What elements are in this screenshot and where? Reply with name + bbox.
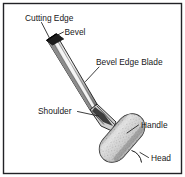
label-bevel: Bevel: [65, 27, 86, 37]
chisel-diagram-canvas: Cutting Edge Bevel Bevel Edge Blade Shou…: [0, 0, 185, 177]
label-cutting-edge: Cutting Edge: [25, 13, 74, 23]
label-handle: Handle: [141, 120, 168, 130]
label-shoulder: Shoulder: [38, 106, 72, 116]
figure-border: [4, 4, 182, 174]
chisel-diagram-figure: Cutting Edge Bevel Bevel Edge Blade Shou…: [0, 0, 185, 177]
label-bevel-edge-blade: Bevel Edge Blade: [96, 57, 163, 67]
label-head: Head: [151, 153, 171, 163]
